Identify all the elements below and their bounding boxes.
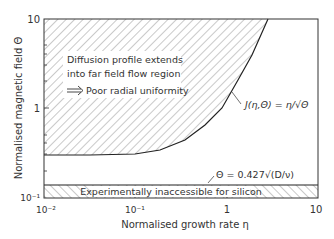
x-tick-01: 10⁻¹ [125,205,145,215]
inaccessible-label: Experimentally inaccessible for silicon [80,186,261,197]
y-axis-title: Normalised magnetic field Θ [13,37,24,180]
x-tick-001: 10⁻² [36,205,56,215]
y-tick-10: 10 [27,14,40,25]
x-axis-title: Normalised growth rate η [121,219,249,230]
chart: 10 1 10⁻¹ 10⁻² 10⁻¹ 1 10 Normalised grow… [0,0,334,239]
y-tick-1: 1 [34,103,40,114]
curve-label-leader [232,92,241,104]
box-line-2: into far field flow region [67,68,180,79]
threshold-label: Θ = 0.427√(D/ν) [216,169,294,180]
threshold-label-leader [208,176,214,183]
x-tick-1: 1 [224,204,230,215]
box-line-3: Poor radial uniformity [86,85,189,96]
y-tick-01: 10⁻¹ [20,193,40,203]
box-line-1: Diffusion profile extends [67,54,183,65]
curve-label: J(η,Θ) = η/√Θ [243,99,309,110]
x-tick-10: 10 [310,204,323,215]
